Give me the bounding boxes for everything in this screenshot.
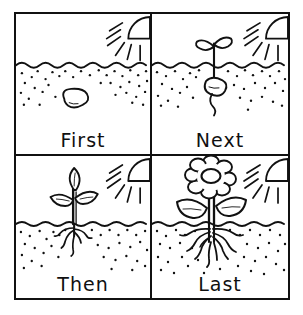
panel-last[interactable]: Last bbox=[152, 156, 288, 298]
panel-then[interactable]: Then bbox=[16, 156, 152, 298]
panel-next-label: Next bbox=[152, 131, 288, 150]
panel-next[interactable]: Next bbox=[152, 14, 288, 156]
panel-then-label: Then bbox=[16, 275, 150, 294]
panel-first[interactable]: First bbox=[16, 14, 152, 156]
soil-dots bbox=[20, 229, 148, 271]
sequence-grid: First bbox=[14, 12, 290, 300]
panel-last-label: Last bbox=[152, 275, 288, 294]
worksheet-canvas: First bbox=[0, 0, 303, 315]
panel-first-label: First bbox=[16, 131, 150, 150]
